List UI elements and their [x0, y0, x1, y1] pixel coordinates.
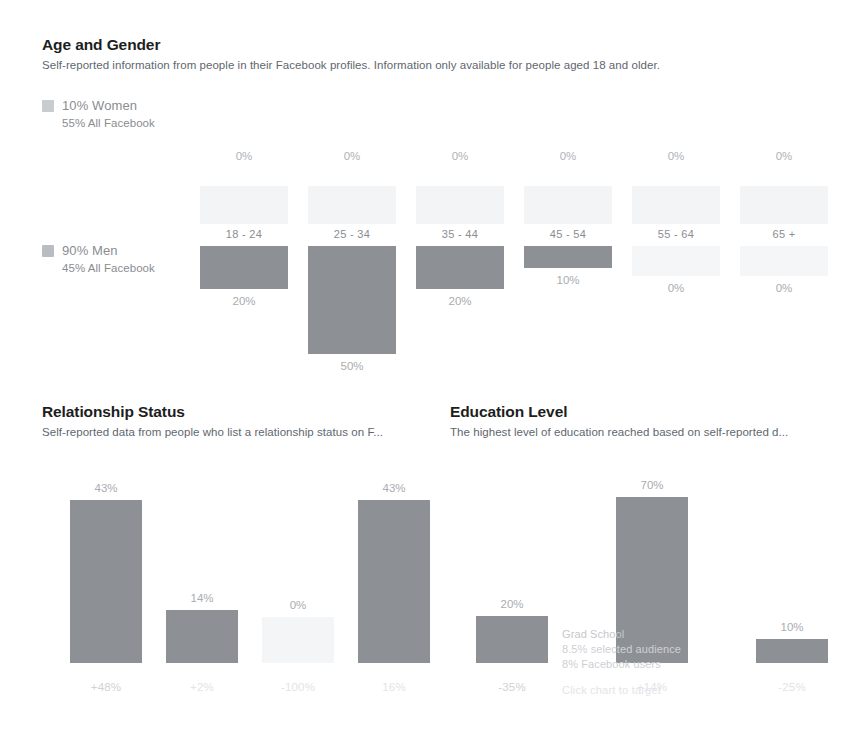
men-value-label: 0%	[736, 282, 832, 294]
age-gender-chart[interactable]: 0%18 - 2420%0%25 - 3450%0%35 - 4420%0%45…	[196, 150, 846, 365]
men-value-label: 0%	[628, 282, 724, 294]
chart-column[interactable]: 14%+2%	[154, 455, 250, 705]
age-and-gender-section: Age and Gender Self-reported information…	[42, 36, 842, 71]
men-bar-zone: 0%	[736, 246, 832, 354]
legend-women[interactable]: 10% Women 55% All Facebook	[42, 98, 155, 129]
age-gender-subtitle: Self-reported information from people in…	[42, 59, 842, 71]
women-bar-zone	[196, 166, 292, 224]
bar-value-label: 0%	[250, 599, 346, 611]
age-band-label: 45 - 54	[520, 228, 616, 240]
bar[interactable]	[476, 616, 548, 664]
men-bar[interactable]	[740, 246, 828, 276]
men-bar-zone: 10%	[520, 246, 616, 354]
chart-column[interactable]: 20%-35%	[464, 455, 560, 705]
relationship-status-section: Relationship Status Self-reported data f…	[42, 403, 442, 438]
men-bar[interactable]	[416, 246, 504, 289]
men-bar-zone: 0%	[628, 246, 724, 354]
women-value-label: 0%	[628, 150, 724, 162]
age-column[interactable]: 0%25 - 3450%	[304, 150, 400, 365]
tooltip-facebook-users: 8% Facebook users	[562, 657, 734, 672]
bar-value-label: 20%	[464, 598, 560, 610]
age-band-label: 35 - 44	[412, 228, 508, 240]
relationship-title: Relationship Status	[42, 403, 442, 421]
women-bar[interactable]	[632, 186, 720, 224]
education-tooltip: Grad School 8.5% selected audience 8% Fa…	[562, 627, 734, 672]
women-bar-zone	[520, 166, 616, 224]
men-value-label: 10%	[520, 274, 616, 286]
women-bar[interactable]	[740, 186, 828, 224]
legend-men-value: 90% Men	[62, 243, 118, 258]
women-value-label: 0%	[520, 150, 616, 162]
bar-axis-label: -25%	[744, 681, 840, 693]
bar-value-label: 43%	[346, 482, 442, 494]
women-bar-zone	[628, 166, 724, 224]
bar-plot-area: 43%	[58, 473, 154, 663]
women-value-label: 0%	[196, 150, 292, 162]
legend-men-benchmark: 45% All Facebook	[62, 262, 155, 274]
women-bar-zone	[304, 166, 400, 224]
tooltip-hint: Click chart to target	[562, 684, 661, 696]
bar[interactable]	[262, 617, 334, 663]
men-value-label: 20%	[196, 295, 292, 307]
chart-column[interactable]: 43%+48%	[58, 455, 154, 705]
bar-axis-label: -100%	[250, 681, 346, 693]
age-band-label: 55 - 64	[628, 228, 724, 240]
education-title: Education Level	[450, 403, 850, 421]
age-column[interactable]: 0%65 +0%	[736, 150, 832, 365]
bar-axis-label: 16%	[346, 681, 442, 693]
chart-column[interactable]: 10%-25%	[744, 455, 840, 705]
age-column[interactable]: 0%45 - 5410%	[520, 150, 616, 365]
bar-plot-area: 14%	[154, 473, 250, 663]
bar-value-label: 14%	[154, 592, 250, 604]
bar-plot-area: 43%	[346, 473, 442, 663]
men-bar-zone: 20%	[412, 246, 508, 354]
chart-column[interactable]: 0%-100%	[250, 455, 346, 705]
men-bar[interactable]	[524, 246, 612, 268]
women-bar[interactable]	[416, 186, 504, 224]
women-value-label: 0%	[736, 150, 832, 162]
women-bar[interactable]	[308, 186, 396, 224]
education-subtitle: The highest level of education reached b…	[450, 426, 850, 438]
men-value-label: 20%	[412, 295, 508, 307]
bar-axis-label: +48%	[58, 681, 154, 693]
bar[interactable]	[166, 610, 238, 663]
chart-column[interactable]: 43%16%	[346, 455, 442, 705]
men-bar-zone: 20%	[196, 246, 292, 354]
legend-men[interactable]: 90% Men 45% All Facebook	[42, 243, 155, 274]
men-bar-zone: 50%	[304, 246, 400, 354]
age-band-label: 65 +	[736, 228, 832, 240]
women-value-label: 0%	[304, 150, 400, 162]
bar[interactable]	[70, 500, 142, 663]
legend-women-value: 10% Women	[62, 98, 137, 113]
age-column[interactable]: 0%55 - 640%	[628, 150, 724, 365]
women-bar[interactable]	[524, 186, 612, 224]
bar[interactable]	[756, 639, 828, 663]
bar[interactable]	[358, 500, 430, 663]
women-bar-zone	[412, 166, 508, 224]
women-bar[interactable]	[200, 186, 288, 224]
bar-plot-area: 0%	[250, 473, 346, 663]
education-level-section: Education Level The highest level of edu…	[450, 403, 850, 438]
legend-men-swatch-icon	[42, 245, 54, 257]
men-bar[interactable]	[200, 246, 288, 289]
relationship-status-chart[interactable]: 43%+48%14%+2%0%-100%43%16%	[42, 455, 442, 705]
bar-value-label: 43%	[58, 482, 154, 494]
age-column[interactable]: 0%35 - 4420%	[412, 150, 508, 365]
demographics-page: Age and Gender Self-reported information…	[0, 0, 868, 754]
men-bar[interactable]	[632, 246, 720, 276]
men-bar[interactable]	[308, 246, 396, 354]
legend-women-swatch-icon	[42, 100, 54, 112]
age-gender-title: Age and Gender	[42, 36, 842, 54]
relationship-subtitle: Self-reported data from people who list …	[42, 426, 442, 438]
bar-axis-label: +2%	[154, 681, 250, 693]
bar-value-label: 70%	[604, 479, 700, 491]
men-value-label: 50%	[304, 360, 400, 372]
bar-plot-area: 10%	[744, 473, 840, 663]
legend-women-benchmark: 55% All Facebook	[62, 117, 155, 129]
tooltip-title: Grad School	[562, 627, 734, 642]
women-bar-zone	[736, 166, 832, 224]
age-band-label: 25 - 34	[304, 228, 400, 240]
bar-plot-area: 20%	[464, 473, 560, 663]
age-column[interactable]: 0%18 - 2420%	[196, 150, 292, 365]
bar-value-label: 10%	[744, 621, 840, 633]
